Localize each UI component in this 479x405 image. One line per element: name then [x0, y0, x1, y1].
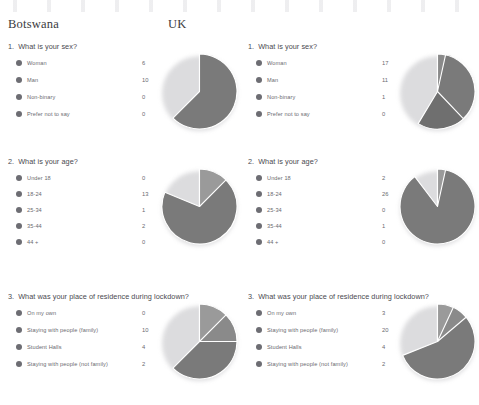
legend-item: 25-34 0 — [256, 202, 416, 218]
pie-chart-botswana-q1 — [160, 52, 239, 131]
legend-label: Staying with people (family) — [27, 322, 98, 339]
legend-uk-q3: On my own 3 Staying with people (family)… — [256, 305, 416, 373]
legend-item: Prefer not to say 0 — [16, 106, 176, 123]
legend-botswana-q3: On my own 0 Staying with people (family)… — [16, 305, 176, 373]
question-number: 3. — [8, 292, 14, 301]
survey-results-page: Botswana UK 1.What is your sex? Woman 6 … — [0, 0, 479, 405]
legend-item: On my own 0 — [16, 305, 176, 322]
legend-label: Student Halls — [267, 339, 302, 356]
legend-swatch-icon — [16, 111, 22, 117]
legend-item: On my own 3 — [256, 305, 416, 322]
question-number: 1. — [8, 42, 14, 51]
country-heading-uk: UK — [168, 17, 186, 32]
legend-value: 26 — [382, 186, 388, 202]
legend-item: Non-binary 0 — [16, 89, 176, 106]
question-number: 2. — [248, 157, 254, 166]
legend-label: Prefer not to say — [267, 106, 310, 123]
legend-swatch-icon — [256, 310, 262, 316]
legend-label: Student Halls — [27, 339, 62, 356]
pie-chart-uk-q3 — [398, 302, 477, 381]
question-text: What is your age? — [258, 157, 318, 166]
legend-item: Under 18 0 — [16, 170, 176, 186]
legend-label: Prefer not to say — [27, 106, 70, 123]
legend-value: 0 — [382, 234, 385, 250]
legend-label: 35-44 — [267, 218, 282, 234]
legend-item: Staying with people (not family) 2 — [16, 356, 176, 373]
legend-item: Staying with people (family) 10 — [16, 322, 176, 339]
legend-value: 1 — [382, 89, 385, 106]
legend-value: 0 — [142, 89, 145, 106]
legend-swatch-icon — [256, 361, 262, 367]
legend-item: 35-44 1 — [256, 218, 416, 234]
legend-label: Under 18 — [267, 170, 291, 186]
legend-label: 25-34 — [27, 202, 42, 218]
legend-value: 0 — [142, 234, 145, 250]
country-heading-botswana: Botswana — [8, 17, 59, 32]
legend-swatch-icon — [256, 175, 262, 181]
legend-label: 44 + — [267, 234, 278, 250]
legend-item: 44 + 0 — [256, 234, 416, 250]
legend-value: 2 — [382, 170, 385, 186]
legend-swatch-icon — [256, 344, 262, 350]
pie-chart-uk-q1 — [398, 52, 477, 131]
question-number: 1. — [248, 42, 254, 51]
legend-value: 2 — [382, 356, 385, 373]
legend-label: Non-binary — [27, 89, 55, 106]
legend-swatch-icon — [16, 77, 22, 83]
question-text: What is your sex? — [258, 42, 317, 51]
pie-canvas — [398, 302, 477, 381]
legend-item: 25-34 1 — [16, 202, 176, 218]
legend-swatch-icon — [16, 310, 22, 316]
legend-value: 4 — [382, 339, 385, 356]
legend-value: 3 — [382, 305, 385, 322]
question-number: 2. — [8, 157, 14, 166]
legend-label: Staying with people (not family) — [27, 356, 108, 373]
legend-label: Staying with people (not family) — [267, 356, 348, 373]
pie-canvas — [398, 167, 477, 246]
legend-label: Woman — [267, 55, 287, 72]
legend-label: Staying with people (family) — [267, 322, 338, 339]
legend-swatch-icon — [256, 111, 262, 117]
legend-label: Man — [27, 72, 38, 89]
pie-chart-botswana-q3 — [160, 302, 239, 381]
legend-label: Under 18 — [27, 170, 51, 186]
question-title-botswana-q3: 3.What was your place of residence durin… — [8, 292, 189, 301]
legend-label: 44 + — [27, 234, 38, 250]
legend-item: Man 10 — [16, 72, 176, 89]
legend-item: Non-binary 1 — [256, 89, 416, 106]
pie-canvas — [160, 52, 239, 131]
pie-canvas — [398, 52, 477, 131]
legend-swatch-icon — [16, 239, 22, 245]
legend-value: 17 — [382, 55, 388, 72]
legend-item: 18-24 13 — [16, 186, 176, 202]
legend-swatch-icon — [16, 361, 22, 367]
question-text: What is your sex? — [18, 42, 77, 51]
legend-botswana-q2: Under 18 0 18-24 13 25-34 1 35-44 2 44 + — [16, 170, 176, 250]
legend-swatch-icon — [256, 207, 262, 213]
question-text: What was your place of residence during … — [18, 292, 189, 301]
legend-item: Student Halls 4 — [256, 339, 416, 356]
legend-item: Under 18 2 — [256, 170, 416, 186]
pie-chart-botswana-q2 — [160, 167, 239, 246]
legend-swatch-icon — [16, 94, 22, 100]
legend-value: 0 — [382, 106, 385, 123]
legend-swatch-icon — [256, 327, 262, 333]
legend-item: 44 + 0 — [16, 234, 176, 250]
legend-label: Woman — [27, 55, 47, 72]
question-title-uk-q1: 1.What is your sex? — [248, 42, 317, 51]
legend-uk-q2: Under 18 2 18-24 26 25-34 0 35-44 1 44 + — [256, 170, 416, 250]
legend-swatch-icon — [256, 94, 262, 100]
legend-label: 18-24 — [267, 186, 282, 202]
legend-label: On my own — [27, 305, 56, 322]
legend-value: 0 — [142, 305, 145, 322]
legend-swatch-icon — [16, 327, 22, 333]
question-title-uk-q3: 3.What was your place of residence durin… — [248, 292, 429, 301]
legend-value: 0 — [142, 170, 145, 186]
legend-label: 35-44 — [27, 218, 42, 234]
legend-value: 1 — [382, 218, 385, 234]
legend-value: 10 — [142, 322, 148, 339]
legend-uk-q1: Woman 17 Man 11 Non-binary 1 Prefer not … — [256, 55, 416, 123]
legend-item: Staying with people (family) 20 — [256, 322, 416, 339]
legend-swatch-icon — [256, 77, 262, 83]
question-title-uk-q2: 2.What is your age? — [248, 157, 318, 166]
